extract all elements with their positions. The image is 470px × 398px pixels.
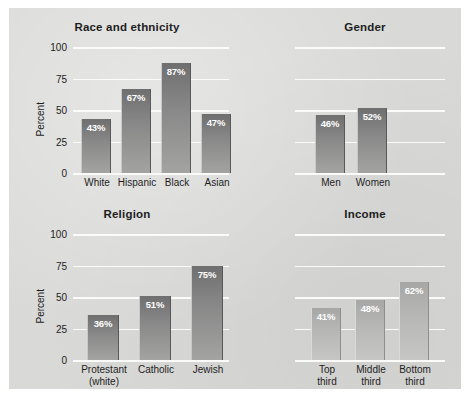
axis-baseline — [295, 360, 445, 362]
bar-top-third: 41% Top third — [311, 308, 341, 360]
chart-title: Religion — [23, 208, 231, 220]
gridline-75 — [295, 79, 445, 81]
bar-value-label: 67% — [122, 92, 150, 103]
bar-value-label: 51% — [140, 299, 170, 310]
bar-asian: 47% Asian — [201, 114, 231, 173]
axis-baseline: 0 — [73, 360, 229, 362]
bar-middle-third: 48% Middle third — [355, 300, 385, 361]
gridline-100: 100 — [73, 234, 229, 236]
y-tick-label: 75 — [56, 260, 67, 271]
x-axis-label: Jewish — [175, 364, 241, 376]
x-axis-label: Bottom third — [387, 364, 443, 387]
bar-value-label: 43% — [82, 122, 110, 133]
y-tick-label: 0 — [61, 168, 67, 179]
plot-area: 100 75 50 25 0 36% Protestant (white) 51… — [73, 234, 229, 360]
y-tick-label: 100 — [50, 42, 67, 53]
figure-panel: Race and ethnicity Percent 100 75 50 25 … — [9, 8, 461, 389]
chart-title: Race and ethnicity — [23, 21, 231, 33]
gridline-75: 75 — [73, 79, 229, 81]
y-tick-label: 50 — [56, 105, 67, 116]
bar-value-label: 87% — [162, 66, 190, 77]
chart-panel-race-and-ethnicity: Race and ethnicity Percent 100 75 50 25 … — [23, 21, 231, 196]
y-tick-label: 25 — [56, 323, 67, 334]
bar-value-label: 47% — [202, 117, 230, 128]
bar-black: 87% Black — [161, 63, 191, 173]
chart-title: Income — [281, 208, 449, 220]
y-axis-title: Percent — [35, 264, 46, 324]
axis-baseline: 0 — [73, 173, 229, 175]
bar-hispanic: 67% Hispanic — [121, 89, 151, 173]
bar-women: 52% Women — [357, 108, 387, 174]
chart-panel-income: Income 41% Top third 48% Middle third 62… — [281, 208, 449, 383]
y-tick-label: 75 — [56, 73, 67, 84]
y-tick-label: 0 — [61, 355, 67, 366]
x-axis-label: Women — [345, 177, 401, 189]
bar-white: 43% White — [81, 119, 111, 173]
gridline-75 — [295, 266, 445, 268]
bar-value-label: 46% — [316, 118, 344, 129]
x-axis-label: Asian — [191, 177, 243, 189]
bar-value-label: 62% — [400, 285, 428, 296]
gridline-100 — [295, 234, 445, 236]
gridline-50: 50 — [73, 110, 229, 112]
plot-area: 46% Men 52% Women — [295, 47, 445, 173]
y-axis-title: Percent — [35, 77, 46, 137]
chart-title: Gender — [281, 21, 449, 33]
bar-value-label: 48% — [356, 303, 384, 314]
bar-jewish: 75% Jewish — [191, 266, 223, 361]
y-tick-label: 100 — [50, 229, 67, 240]
chart-panel-gender: Gender 46% Men 52% Women — [281, 21, 449, 196]
y-tick-label: 25 — [56, 136, 67, 147]
bar-protestant-white: 36% Protestant (white) — [87, 315, 119, 360]
axis-baseline — [295, 173, 445, 175]
bar-value-label: 75% — [192, 269, 222, 280]
y-tick-label: 50 — [56, 292, 67, 303]
plot-area: 41% Top third 48% Middle third 62% Botto… — [295, 234, 445, 360]
bar-bottom-third: 62% Bottom third — [399, 282, 429, 360]
bar-value-label: 36% — [88, 318, 118, 329]
gridline-100: 100 — [73, 47, 229, 49]
bar-value-label: 52% — [358, 111, 386, 122]
gridline-100 — [295, 47, 445, 49]
bar-value-label: 41% — [312, 311, 340, 322]
chart-panel-religion: Religion Percent 100 75 50 25 0 36% Prot… — [23, 208, 231, 383]
bar-catholic: 51% Catholic — [139, 296, 171, 360]
plot-area: 100 75 50 25 0 43% White 67% Hispanic — [73, 47, 229, 173]
bar-men: 46% Men — [315, 115, 345, 173]
